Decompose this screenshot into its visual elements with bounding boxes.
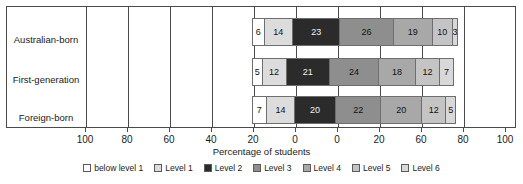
axis-tick	[253, 128, 254, 132]
axis-tick	[127, 128, 128, 132]
bar-segment: 12	[421, 96, 446, 124]
axis-tick	[295, 128, 296, 132]
legend-item[interactable]: Level 1	[154, 163, 192, 173]
axis-tick-label: 40	[205, 134, 216, 145]
bar-segment: 18	[378, 58, 416, 86]
bar-row: 614232619103	[252, 18, 458, 46]
legend-label: Level 5	[363, 163, 390, 173]
legend-swatch-icon	[204, 164, 212, 172]
bar-segment: 7	[252, 96, 267, 124]
bar-segment: 20	[294, 96, 336, 124]
bar-segment: 21	[286, 58, 330, 86]
axis-tick	[85, 128, 86, 132]
legend-label: Level 6	[412, 163, 439, 173]
legend-item[interactable]: Level 2	[204, 163, 242, 173]
bar-series-layer: 614232619103512212418127714202220125	[6, 6, 516, 128]
bar-value-label: 5	[448, 105, 453, 115]
bar-value-label: 7	[444, 67, 449, 77]
bar-segment: 12	[262, 58, 287, 86]
axis-tick-label: 100	[77, 134, 94, 145]
bar-segment: 24	[329, 58, 379, 86]
bar-value-label: 12	[423, 67, 433, 77]
axis-tick-label: 80	[457, 134, 468, 145]
legend-label: Level 1	[165, 163, 192, 173]
bar-value-label: 14	[275, 105, 285, 115]
bar-value-label: 26	[362, 27, 372, 37]
bar-value-label: 10	[437, 27, 447, 37]
legend-label: Level 2	[215, 163, 242, 173]
axis-tick-label: 100	[497, 134, 514, 145]
axis-tick-label: 0	[334, 134, 340, 145]
chart-legend: below level 1Level 1Level 2Level 3Level …	[0, 163, 523, 173]
bar-segment: 14	[264, 18, 293, 46]
legend-item[interactable]: Level 6	[401, 163, 439, 173]
bar-value-label: 22	[353, 105, 363, 115]
bar-value-label: 20	[310, 105, 320, 115]
bar-segment: 10	[432, 18, 453, 46]
bar-value-label: 6	[256, 27, 261, 37]
bar-value-label: 12	[269, 67, 279, 77]
legend-item[interactable]: Level 3	[253, 163, 291, 173]
bar-value-label: 19	[408, 27, 418, 37]
bar-row: 512212418127	[252, 58, 454, 86]
legend-swatch-icon	[352, 164, 360, 172]
legend-label: Level 4	[314, 163, 341, 173]
axis-tick-label: 20	[247, 134, 258, 145]
bar-segment: 3	[452, 18, 458, 46]
axis-tick	[379, 128, 380, 132]
bar-segment: 23	[292, 18, 340, 46]
bar-value-label: 5	[255, 67, 260, 77]
legend-swatch-icon	[303, 164, 311, 172]
legend-swatch-icon	[83, 164, 91, 172]
bar-segment: 14	[266, 96, 295, 124]
legend-item[interactable]: Level 5	[352, 163, 390, 173]
bar-segment: 19	[393, 18, 433, 46]
stacked-bar-chart: Australian-bornFirst-generationForeign-b…	[0, 0, 523, 184]
bar-value-label: 20	[396, 105, 406, 115]
bar-segment: 22	[335, 96, 381, 124]
legend-label: below level 1	[94, 163, 143, 173]
bar-value-label: 24	[349, 67, 359, 77]
bar-segment: 7	[439, 58, 454, 86]
axis-tick	[463, 128, 464, 132]
axis-tick-label: 60	[163, 134, 174, 145]
axis-tick-label: 80	[121, 134, 132, 145]
bar-value-label: 7	[257, 105, 262, 115]
bar-segment: 20	[380, 96, 422, 124]
legend-swatch-icon	[154, 164, 162, 172]
axis-tick	[337, 128, 338, 132]
bar-value-label: 14	[273, 27, 283, 37]
bar-value-label: 12	[429, 105, 439, 115]
axis-tick-label: 20	[373, 134, 384, 145]
bar-value-label: 23	[311, 27, 321, 37]
bar-row: 714202220125	[252, 96, 456, 124]
legend-item[interactable]: below level 1	[83, 163, 143, 173]
axis-tick-label: 0	[292, 134, 298, 145]
axis-tick-label: 60	[415, 134, 426, 145]
bar-value-label: 18	[392, 67, 402, 77]
legend-label: Level 3	[264, 163, 291, 173]
bar-segment: 12	[415, 58, 440, 86]
bar-value-label: 21	[303, 67, 313, 77]
legend-swatch-icon	[253, 164, 261, 172]
bar-segment: 26	[339, 18, 394, 46]
axis-tick	[421, 128, 422, 132]
axis-tick	[169, 128, 170, 132]
bar-segment: 5	[445, 96, 456, 124]
legend-swatch-icon	[401, 164, 409, 172]
legend-item[interactable]: Level 4	[303, 163, 341, 173]
axis-tick	[211, 128, 212, 132]
axis-tick	[505, 128, 506, 132]
x-axis-title: Percentage of students	[0, 146, 523, 157]
bar-value-label: 3	[452, 27, 457, 37]
